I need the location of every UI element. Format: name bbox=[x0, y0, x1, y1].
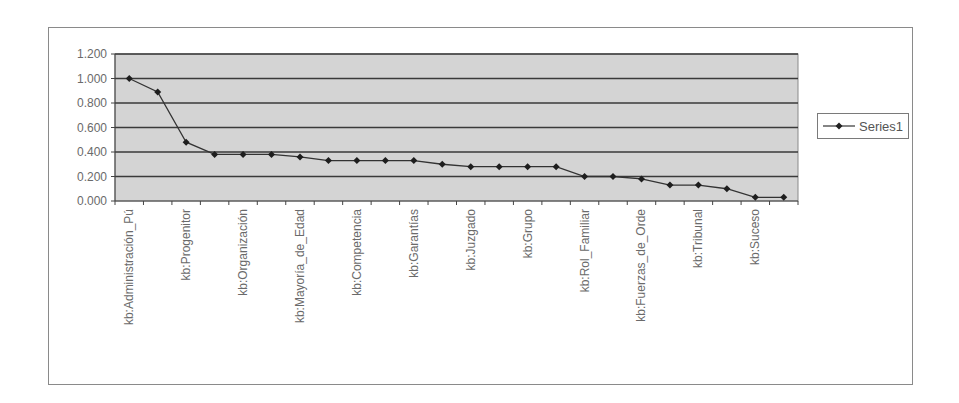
x-tick-label: kb:Administración_Pú bbox=[122, 209, 136, 325]
x-tick-label: kb:Fuerzas_de_Orde bbox=[634, 209, 648, 322]
y-tick-label: 0.000 bbox=[77, 194, 107, 208]
x-tick-label: kb:Tribunal bbox=[691, 209, 705, 268]
legend: Series1 bbox=[817, 113, 909, 139]
x-tick-label: kb:Competencia bbox=[350, 209, 364, 296]
y-tick-label: 1.200 bbox=[77, 47, 107, 61]
y-tick-label: 0.600 bbox=[77, 121, 107, 135]
y-tick-label: 1.000 bbox=[77, 72, 107, 86]
chart-frame: 0.0000.2000.4000.6000.8001.0001.200kb:Ad… bbox=[48, 27, 913, 385]
series-marker-icon bbox=[822, 120, 856, 132]
y-tick-label: 0.800 bbox=[77, 96, 107, 110]
x-tick-label: kb:Mayoría_de_Edad bbox=[293, 209, 307, 323]
x-tick-label: kb:Suceso bbox=[748, 209, 762, 265]
x-tick-label: kb:Grupo bbox=[521, 209, 535, 259]
x-tick-label: kb:Progenitor bbox=[179, 209, 193, 280]
y-tick-label: 0.400 bbox=[77, 145, 107, 159]
legend-label: Series1 bbox=[859, 119, 903, 134]
y-tick-label: 0.200 bbox=[77, 170, 107, 184]
x-tick-label: kb:Rol_Familiar bbox=[578, 209, 592, 292]
x-tick-label: kb:Juzgado bbox=[464, 209, 478, 271]
x-tick-label: kb:Organización bbox=[236, 209, 250, 296]
line-chart: 0.0000.2000.4000.6000.8001.0001.200kb:Ad… bbox=[49, 28, 914, 386]
x-tick-label: kb:Garantías bbox=[407, 209, 421, 278]
